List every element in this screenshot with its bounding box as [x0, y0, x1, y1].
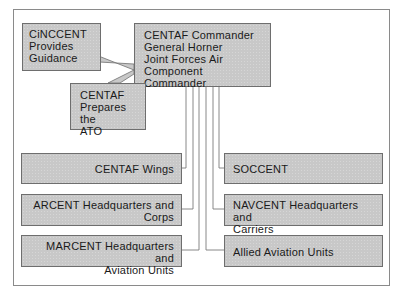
- arcent-label: ARCENT Headquarters and Corps: [29, 199, 174, 223]
- navcent-box: NAVCENT Headquarters and Carriers: [224, 194, 383, 226]
- marcent-label: MARCENT Headquarters and Aviation Units: [29, 240, 174, 276]
- arcent-box: ARCENT Headquarters and Corps: [21, 194, 182, 226]
- centaf-wings-label: CENTAF Wings: [29, 163, 174, 175]
- soccent-label: SOCCENT: [233, 163, 374, 175]
- centaf-wings-box: CENTAF Wings: [21, 153, 182, 184]
- line-to-centaf-wings: [182, 86, 186, 168]
- soccent-box: SOCCENT: [224, 153, 383, 184]
- allied-aviation-box: Allied Aviation Units: [224, 235, 383, 267]
- centaf-prepares-box: CENTAF Prepares the ATO: [70, 83, 146, 130]
- marcent-box: MARCENT Headquarters and Aviation Units: [21, 235, 182, 267]
- centaf-commander-label: CENTAF Commander General Horner Joint Fo…: [144, 29, 261, 89]
- navcent-label: NAVCENT Headquarters and Carriers: [233, 199, 374, 235]
- centaf-prepares-label: CENTAF Prepares the ATO: [80, 89, 136, 137]
- centaf-commander-box: CENTAF Commander General Horner Joint Fo…: [134, 23, 271, 87]
- allied-aviation-label: Allied Aviation Units: [233, 246, 374, 258]
- cinccent-box: CiNCCENT Provides Guidance: [22, 23, 101, 71]
- prepares-callout-wedge: [108, 70, 134, 83]
- line-to-arcent: [182, 86, 193, 209]
- cinccent-callout-wedge: [96, 55, 134, 70]
- line-to-navcent: [213, 86, 224, 209]
- cinccent-label: CiNCCENT Provides Guidance: [29, 28, 94, 64]
